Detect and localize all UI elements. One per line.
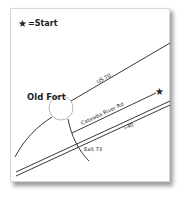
legend-label: =Start (28, 19, 58, 28)
i40-label: I-40 (123, 121, 135, 131)
legend-star-icon: ★ (18, 18, 27, 29)
old-fort-label: Old Fort (27, 92, 66, 102)
exit73-label: Exit 73 (84, 146, 102, 152)
i40-road-north (16, 101, 170, 172)
west-road (15, 117, 52, 157)
catawba-label: Catawba River Rd (80, 101, 125, 126)
us70-label: US 70 (96, 72, 112, 85)
map-canvas: ★ =Start US 70 Old Fort Catawba River Rd… (0, 0, 183, 199)
start-star-icon: ★ (155, 86, 164, 97)
